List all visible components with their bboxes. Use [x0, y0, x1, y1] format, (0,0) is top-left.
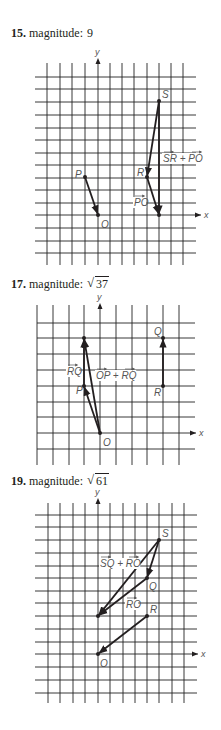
svg-text:RO: RO	[126, 599, 141, 610]
point-label-q: Q	[149, 581, 157, 592]
point-marker	[96, 614, 100, 618]
svg-text:SQ + RO: SQ + RO	[100, 558, 141, 569]
point-label-o: O	[100, 658, 108, 669]
x-axis-label: x	[200, 649, 206, 659]
vector-label: SQ + RO	[99, 556, 141, 570]
vector-label: RO	[125, 597, 141, 611]
x-axis: x	[192, 649, 206, 659]
point-marker	[145, 576, 149, 580]
vector-graph-19: yxSQROSQ + RORO	[0, 0, 221, 730]
y-axis: y	[94, 487, 101, 504]
point-label-s: S	[162, 528, 169, 539]
point-marker	[157, 538, 161, 542]
point-marker	[96, 652, 100, 656]
y-axis-label: y	[94, 487, 100, 497]
vector-arrow	[147, 540, 159, 577]
point-label-r: R	[150, 604, 157, 615]
point-marker	[145, 614, 149, 618]
